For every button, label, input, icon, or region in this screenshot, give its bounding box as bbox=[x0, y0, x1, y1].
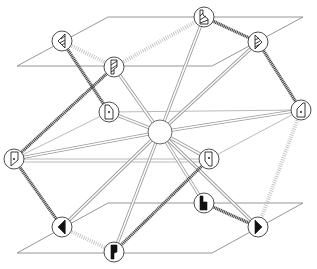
edge-F-L bbox=[258, 110, 301, 227]
node-C bbox=[194, 7, 214, 27]
node-F bbox=[291, 100, 311, 120]
layered-network-diagram bbox=[0, 0, 317, 269]
node-D bbox=[248, 32, 268, 52]
node-K bbox=[194, 193, 214, 213]
node-A bbox=[52, 31, 72, 51]
node-I bbox=[52, 217, 72, 237]
node-B bbox=[104, 57, 124, 77]
node-E bbox=[99, 102, 119, 122]
edge-hub-L bbox=[160, 132, 258, 227]
edge-D-F bbox=[258, 42, 301, 110]
edge-hub-C bbox=[160, 17, 204, 132]
edge-G-I bbox=[14, 159, 62, 227]
center-hub bbox=[148, 120, 172, 144]
node-G bbox=[4, 149, 24, 169]
node-H bbox=[199, 149, 219, 169]
node-L bbox=[248, 217, 268, 237]
hatched-edges bbox=[62, 17, 301, 252]
edge-B-C bbox=[114, 17, 204, 67]
node-J bbox=[104, 242, 124, 262]
edge-hub-J bbox=[114, 132, 160, 252]
